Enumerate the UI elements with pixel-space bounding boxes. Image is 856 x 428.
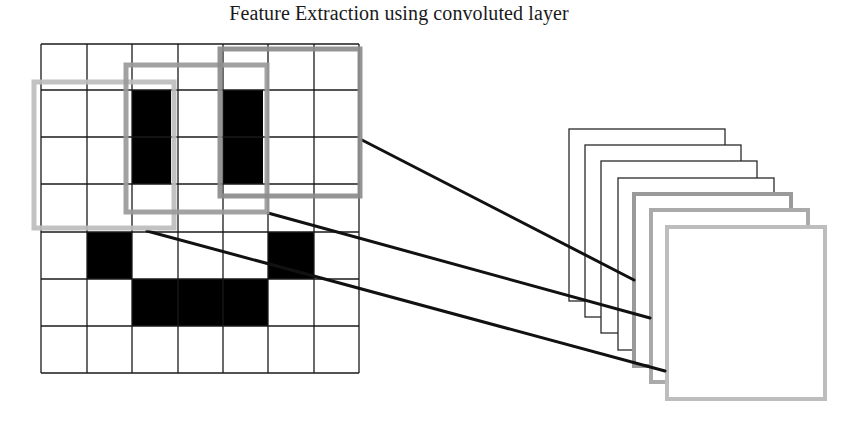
convolution-diagram — [0, 0, 856, 428]
filled-cell — [87, 232, 132, 279]
feature-map-stack — [569, 129, 825, 399]
filled-cell — [268, 232, 314, 279]
input-grid-filled-cells — [87, 90, 314, 326]
filled-cell — [132, 279, 268, 326]
feature-map-7 — [667, 227, 825, 399]
filter-windows — [34, 49, 360, 228]
